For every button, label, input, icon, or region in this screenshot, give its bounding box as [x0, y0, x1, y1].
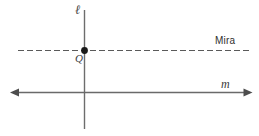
label-mira: Mira — [215, 36, 235, 46]
label-line-l: ℓ — [75, 3, 80, 16]
figure-canvas — [0, 0, 259, 136]
label-line-m: m — [221, 78, 230, 90]
geometry-figure: ℓ Q m Mira — [0, 0, 259, 136]
label-point-q: Q — [75, 53, 83, 64]
arrowhead-left-icon — [10, 89, 19, 97]
arrowhead-right-icon — [244, 89, 253, 97]
